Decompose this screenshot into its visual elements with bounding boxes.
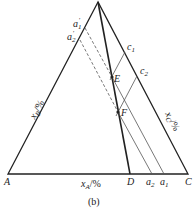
axis-label-xA: xA/% xyxy=(81,179,101,191)
label-c2: c2 xyxy=(140,66,148,78)
label-A: A xyxy=(4,177,10,187)
line-E-a1 xyxy=(112,77,164,174)
line-F-a2 xyxy=(118,112,152,174)
label-E: E xyxy=(114,74,120,84)
figure-caption: (b) xyxy=(88,197,100,207)
label-a1: a1 xyxy=(160,177,169,189)
label-c1: c1 xyxy=(127,42,135,54)
label-a2: a2 xyxy=(146,177,155,189)
label-F: F xyxy=(121,108,127,118)
label-C: C xyxy=(185,177,192,187)
label-a2-prime: a2′ xyxy=(67,30,74,44)
triangle-outline xyxy=(8,2,188,174)
point-F xyxy=(116,110,119,113)
label-a1-prime: a1′ xyxy=(73,17,80,31)
label-D: D xyxy=(127,177,134,187)
apex-to-D-line xyxy=(98,2,130,174)
